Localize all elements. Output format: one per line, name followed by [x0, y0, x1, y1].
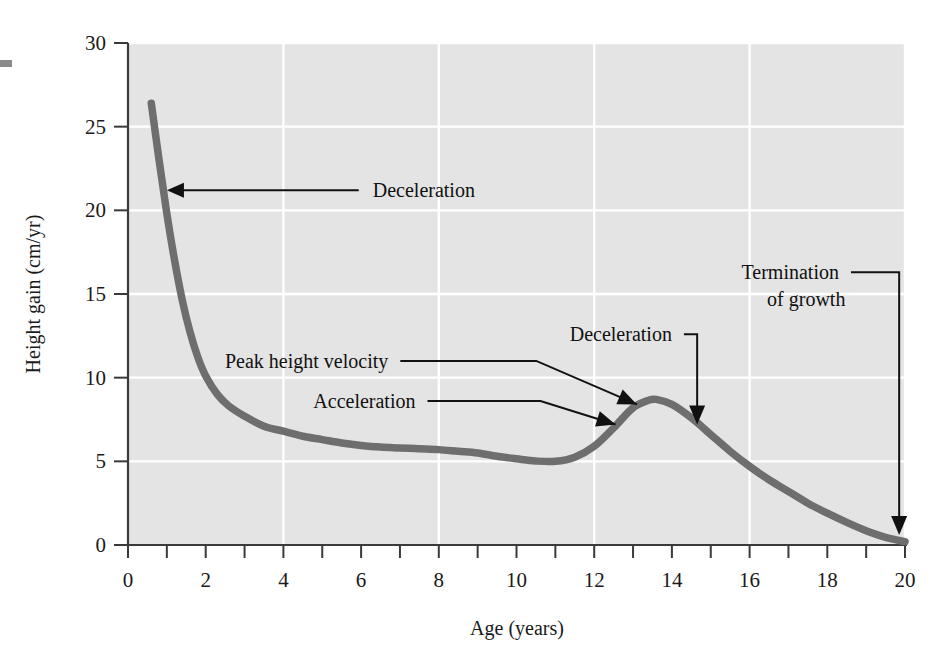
y-tick-label: 0 — [96, 533, 107, 557]
y-tick-label: 15 — [85, 282, 106, 306]
x-tick-label: 6 — [356, 568, 367, 592]
annotation-label: Peak height velocity — [225, 350, 388, 373]
annotation-label-line2: of growth — [767, 288, 845, 311]
y-tick-label: 10 — [85, 366, 106, 390]
y-tick-label: 25 — [85, 115, 106, 139]
annotation-label: Acceleration — [313, 390, 415, 412]
height-velocity-chart: 02468101214161820 051015202530 Decelerat… — [0, 0, 951, 661]
y-tick-label: 20 — [85, 198, 106, 222]
x-axis-title: Age (years) — [470, 617, 564, 640]
x-tick-label: 14 — [661, 568, 683, 592]
y-axis-ticks — [114, 43, 128, 545]
x-tick-label: 0 — [123, 568, 134, 592]
x-tick-label: 18 — [817, 568, 838, 592]
x-tick-label: 20 — [895, 568, 916, 592]
x-tick-label: 4 — [278, 568, 289, 592]
y-axis-title: Height gain (cm/yr) — [22, 215, 45, 374]
y-tick-label: 30 — [85, 31, 106, 55]
crop-mark — [0, 60, 12, 67]
x-axis-tick-labels: 02468101214161820 — [123, 568, 916, 592]
x-tick-label: 2 — [200, 568, 211, 592]
y-axis-tick-labels: 051015202530 — [85, 31, 106, 557]
annotation-label: Deceleration — [570, 323, 672, 345]
annotation-label-line1: Termination — [741, 261, 838, 283]
x-tick-label: 8 — [434, 568, 445, 592]
x-tick-label: 10 — [506, 568, 527, 592]
x-tick-label: 16 — [739, 568, 760, 592]
y-tick-label: 5 — [96, 449, 107, 473]
annotation-label: Deceleration — [373, 179, 475, 201]
x-tick-label: 12 — [584, 568, 605, 592]
x-axis-ticks — [128, 545, 905, 558]
chart-figure: 02468101214161820 051015202530 Decelerat… — [0, 0, 951, 661]
